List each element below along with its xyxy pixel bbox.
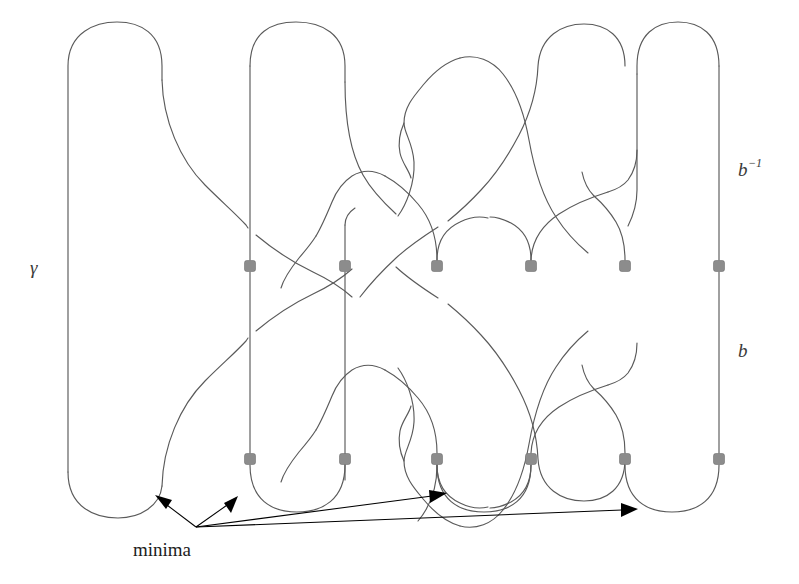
node-marker (340, 261, 351, 272)
strand-left-outer-bottom-cap (68, 472, 162, 518)
strand-group-col6-right (628, 22, 719, 453)
strand-group-left-ascend (162, 269, 352, 486)
strand-group-center-top (398, 57, 588, 253)
strand-col1-col2-bottom-arc (250, 465, 345, 512)
minima-arrow-3-head (429, 490, 447, 503)
strand-center-hump-bottom-right (460, 331, 588, 527)
knot-diagram-figure: γ b −1 b minima (0, 0, 799, 584)
strand-col3-col4-bottom-arc (437, 465, 531, 512)
label-b-inverse: b (738, 159, 748, 180)
strand-left-ascend-from-bottom-cap (162, 338, 248, 486)
strand-col6-top-cap (637, 22, 719, 74)
strand-group-lower-middle (281, 272, 719, 521)
minima-arrow-group (155, 490, 638, 527)
node-marker (526, 454, 537, 465)
strand-left-descend-to-col1 (162, 80, 248, 228)
label-gamma: γ (30, 257, 38, 278)
node-row-upper (245, 261, 725, 272)
knot-diagram-canvas: γ b −1 b minima (0, 0, 799, 584)
strand-col5-lower-arc-tail (582, 365, 594, 389)
strand-group-col1 (250, 22, 345, 512)
strand-lower-center-rise-left (385, 370, 437, 453)
strand-col2-node-feed (345, 208, 355, 225)
strand-eye-upper-right (490, 217, 531, 260)
strand-eye-lower-left (437, 465, 488, 508)
minima-arrow-2-head (224, 496, 238, 513)
strand-col5-upper-arc (594, 196, 625, 260)
node-marker (245, 454, 256, 465)
node-marker (620, 261, 631, 272)
strand-col2-descend (345, 82, 396, 214)
strand-eye-upper-left (437, 217, 488, 260)
strand-group-left-outer (68, 22, 162, 518)
strand-center-hump-top-right (460, 57, 588, 253)
node-marker (526, 261, 537, 272)
strand-col4-lower-right-arc (531, 385, 608, 453)
strand-upper-left-to-col2 (281, 236, 316, 288)
minima-arrow-4-head (621, 503, 638, 517)
node-marker (714, 454, 725, 465)
strand-group-upper-middle (281, 150, 637, 288)
strand-col1-top-cap (250, 22, 345, 82)
node-row-lower (245, 454, 725, 465)
strand-center-hump-left-lower (398, 368, 460, 526)
strand-col5-upper-arc-tail (582, 172, 594, 196)
node-marker (432, 454, 443, 465)
node-marker (714, 261, 725, 272)
strand-col3-upper-arc-tail (316, 172, 385, 237)
strand-right-hump-lower (448, 304, 625, 501)
strand-col6-right-to-left-descend (628, 74, 637, 226)
label-minima: minima (133, 539, 192, 560)
strand-group-center-bottom (396, 267, 625, 527)
strand-group-right-hump (360, 24, 625, 297)
strand-lower-center-rise-left-tail (316, 366, 385, 431)
strand-lower-left-to-col2 (281, 430, 316, 482)
strand-left-ascend-after-col1 (256, 269, 352, 331)
node-marker (432, 261, 443, 272)
strand-left-outer-boundary (68, 22, 162, 472)
label-b-inverse-exponent: −1 (748, 156, 762, 170)
strand-group-col2 (345, 82, 396, 214)
strand-right-hump-after-cross (360, 227, 438, 297)
strand-left-descend-after-col1 (256, 235, 352, 297)
strand-eye-lower-right (490, 465, 531, 508)
strand-col4-lower-right-arc-cont (608, 343, 637, 385)
strand-group-left-descend (162, 80, 352, 297)
strand-col5-col6-bottom-arc (625, 465, 719, 512)
node-marker (340, 454, 351, 465)
strand-col4-upper-right-arc-cont (608, 150, 637, 192)
node-marker (620, 454, 631, 465)
label-b: b (738, 340, 748, 361)
strand-right-hump-lower-after-cross (396, 267, 438, 298)
node-marker (245, 261, 256, 272)
strand-col4-upper-right-arc (531, 192, 608, 260)
strand-right-hump (448, 24, 625, 221)
strand-col5-lower-arc (594, 389, 625, 453)
